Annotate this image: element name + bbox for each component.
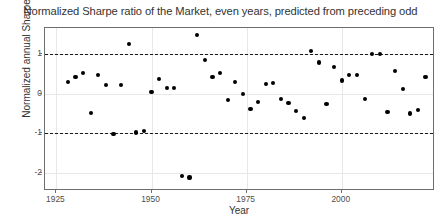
data-point: [127, 42, 131, 46]
data-point: [218, 71, 222, 75]
data-point: [96, 73, 100, 77]
data-point: [203, 58, 207, 62]
data-point: [104, 83, 108, 87]
y-tick-mark: [39, 132, 42, 133]
x-tick-mark: [55, 190, 56, 193]
data-point: [332, 65, 336, 69]
data-point: [165, 86, 169, 90]
plot-area: [44, 27, 434, 190]
y-tick-mark: [39, 53, 42, 54]
data-point: [309, 49, 313, 53]
data-point: [302, 116, 306, 120]
data-point: [264, 82, 268, 86]
data-point: [393, 69, 397, 73]
data-point: [241, 92, 245, 96]
data-point: [66, 80, 70, 84]
data-point: [286, 101, 290, 105]
data-point: [294, 109, 298, 113]
gridline-horizontal: [45, 94, 433, 95]
data-point: [385, 110, 389, 114]
x-tick-label: 1975: [236, 194, 255, 204]
data-point: [271, 81, 275, 85]
data-point: [210, 75, 214, 79]
data-point: [187, 175, 191, 179]
data-point: [226, 98, 230, 102]
data-point: [81, 71, 85, 75]
x-tick-mark: [246, 190, 247, 193]
data-point: [256, 100, 260, 104]
chart-figure: Normalized Sharpe ratio of the Market, e…: [0, 0, 441, 224]
data-point: [73, 75, 77, 79]
gridline-vertical: [342, 28, 343, 189]
data-point: [347, 73, 351, 77]
y-tick-mark: [39, 93, 42, 94]
data-point: [401, 87, 405, 91]
data-point: [324, 102, 328, 106]
x-tick-label: 1925: [46, 194, 65, 204]
data-point: [317, 60, 321, 64]
gridline-horizontal: [45, 173, 433, 174]
data-point: [279, 97, 283, 101]
x-tick-mark: [341, 190, 342, 193]
data-point: [195, 33, 199, 37]
data-point: [370, 52, 374, 56]
data-point: [355, 73, 359, 77]
data-point: [378, 52, 382, 56]
data-point: [149, 90, 153, 94]
x-tick-mark: [151, 190, 152, 193]
data-point: [363, 97, 367, 101]
data-point: [180, 174, 184, 178]
data-point: [111, 132, 115, 136]
data-point: [119, 83, 123, 87]
gridline-vertical: [56, 28, 57, 189]
reference-line: [45, 133, 433, 134]
data-point: [89, 111, 93, 115]
x-tick-label: 1950: [141, 194, 160, 204]
gridline-vertical: [152, 28, 153, 189]
chart-title: Normalized Sharpe ratio of the Market, e…: [0, 5, 441, 17]
data-point: [416, 108, 420, 112]
data-point: [233, 80, 237, 84]
data-point: [172, 86, 176, 90]
y-tick-mark: [39, 172, 42, 173]
data-point: [340, 78, 344, 82]
data-point: [157, 77, 161, 81]
y-axis-label: Normalized annual Sharpe: [21, 0, 32, 134]
reference-line: [45, 54, 433, 55]
data-point: [408, 111, 412, 115]
data-point: [248, 107, 252, 111]
x-tick-label: 2000: [331, 194, 350, 204]
x-axis-label: Year: [44, 205, 434, 216]
data-point: [423, 75, 427, 79]
